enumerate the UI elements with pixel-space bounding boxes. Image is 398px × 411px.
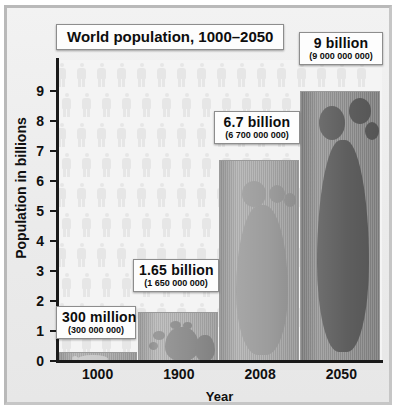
person-pictogram [177, 183, 186, 207]
person-pictogram [97, 123, 106, 147]
x-axis-title: Year [57, 389, 382, 404]
bar-shading [301, 92, 379, 360]
person-pictogram [277, 63, 286, 87]
person-pictogram [102, 153, 111, 177]
chart-title-box: World population, 1000–2050 [56, 24, 284, 50]
callout-2008: 6.7 billion (6 700 000 000) [214, 111, 300, 144]
callout-1900: 1.65 billion (1 650 000 000) [133, 259, 219, 292]
person-pictogram [182, 153, 191, 177]
person-pictogram [62, 273, 71, 297]
person-pictogram [117, 63, 126, 87]
bar-2050[interactable] [300, 91, 380, 361]
person-pictogram [197, 63, 206, 87]
person-pictogram [117, 123, 126, 147]
bar-2008[interactable] [219, 160, 299, 361]
y-tick-7 [50, 150, 57, 152]
callout-value: 9 billion [305, 35, 377, 51]
x-tick-label-1900: 1900 [139, 366, 219, 382]
bar-shading [58, 353, 136, 360]
person-pictogram [137, 123, 146, 147]
callout-exact-value: (1 650 000 000) [139, 278, 213, 288]
person-pictogram [157, 63, 166, 87]
person-pictogram [82, 93, 91, 117]
person-pictogram [162, 213, 171, 237]
person-pictogram [97, 243, 106, 267]
person-pictogram [77, 123, 86, 147]
x-tick-label-2050: 2050 [301, 366, 381, 382]
bar-shading [220, 161, 298, 360]
y-tick-label-0: 0 [26, 354, 44, 368]
callout-exact-value: (6 700 000 000) [220, 130, 294, 140]
person-pictogram [122, 153, 131, 177]
y-tick-4 [50, 240, 57, 242]
person-pictogram [202, 213, 211, 237]
y-tick-label-1: 1 [26, 324, 44, 338]
person-pictogram [157, 183, 166, 207]
person-pictogram [257, 63, 266, 87]
person-pictogram [237, 63, 246, 87]
person-pictogram [337, 63, 346, 87]
person-pictogram [122, 213, 131, 237]
y-tick-3 [50, 270, 57, 272]
x-tick-label-2008: 2008 [220, 366, 300, 382]
person-pictogram [137, 183, 146, 207]
y-tick-8 [50, 120, 57, 122]
person-pictogram [357, 63, 366, 87]
person-pictogram [297, 63, 306, 87]
person-pictogram [317, 63, 326, 87]
person-pictogram [137, 63, 146, 87]
y-tick-label-2: 2 [26, 294, 44, 308]
callout-value: 6.7 billion [220, 114, 294, 130]
person-pictogram [117, 183, 126, 207]
person-pictogram [217, 63, 226, 87]
callout-exact-value: (9 000 000 000) [305, 51, 377, 61]
person-pictogram [102, 273, 111, 297]
callout-2050: 9 billion (9 000 000 000) [299, 32, 383, 65]
bar-shading [139, 313, 217, 361]
person-pictogram [62, 93, 71, 117]
person-pictogram [102, 93, 111, 117]
callout-exact-value: (300 000 000) [62, 325, 130, 335]
y-tick-2 [50, 300, 57, 302]
callout-1000: 300 million (300 000 000) [56, 306, 136, 339]
y-tick-6 [50, 180, 57, 182]
person-pictogram [197, 183, 206, 207]
y-tick-9 [50, 90, 57, 92]
y-tick-0 [50, 360, 57, 362]
person-pictogram [182, 93, 191, 117]
person-pictogram [97, 63, 106, 87]
person-pictogram [62, 153, 71, 177]
person-pictogram [162, 153, 171, 177]
person-pictogram [122, 93, 131, 117]
person-pictogram [122, 273, 131, 297]
y-axis-title: Population in billions [13, 83, 29, 293]
bar-1900[interactable] [138, 312, 218, 362]
person-pictogram [197, 123, 206, 147]
person-pictogram [202, 153, 211, 177]
person-pictogram [77, 63, 86, 87]
chart-title: World population, 1000–2050 [67, 28, 273, 45]
person-pictogram [77, 183, 86, 207]
person-pictogram [82, 273, 91, 297]
person-pictogram [142, 213, 151, 237]
y-tick-5 [50, 210, 57, 212]
person-pictogram [82, 153, 91, 177]
person-pictogram [62, 213, 71, 237]
person-pictogram [177, 63, 186, 87]
callout-value: 300 million [62, 309, 130, 325]
chart-figure: 0123456789 Population in billions 100019… [0, 0, 398, 411]
person-pictogram [142, 93, 151, 117]
person-pictogram [162, 93, 171, 117]
x-axis-line [56, 360, 383, 363]
person-pictogram [142, 153, 151, 177]
person-pictogram [177, 123, 186, 147]
person-pictogram [202, 93, 211, 117]
person-pictogram [77, 243, 86, 267]
person-pictogram [102, 213, 111, 237]
person-pictogram [157, 123, 166, 147]
x-tick-label-1000: 1000 [58, 366, 138, 382]
person-pictogram [82, 213, 91, 237]
person-pictogram [182, 213, 191, 237]
person-pictogram [97, 183, 106, 207]
callout-value: 1.65 billion [139, 262, 213, 278]
